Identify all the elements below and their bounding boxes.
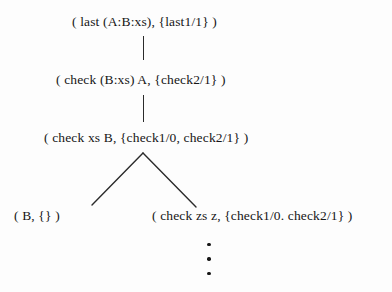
tree-fork-branches [0, 0, 392, 292]
vertical-ellipsis-icon [203, 243, 215, 275]
tree-edge-check1-to-check-zs [143, 153, 196, 207]
tree-edge-check1-to-leaf-b [92, 153, 143, 205]
derivation-tree-canvas: ( last (A:B:xs), {last1/1} ) ( check (B:… [0, 0, 392, 292]
ellipsis-dot [207, 257, 210, 260]
ellipsis-dot [207, 243, 210, 246]
tree-node-check-zs: ( check zs z, {check1/0. check2/1} ) [152, 208, 353, 224]
tree-node-leaf-b: ( B, {} ) [14, 208, 60, 224]
ellipsis-dot [207, 272, 210, 275]
